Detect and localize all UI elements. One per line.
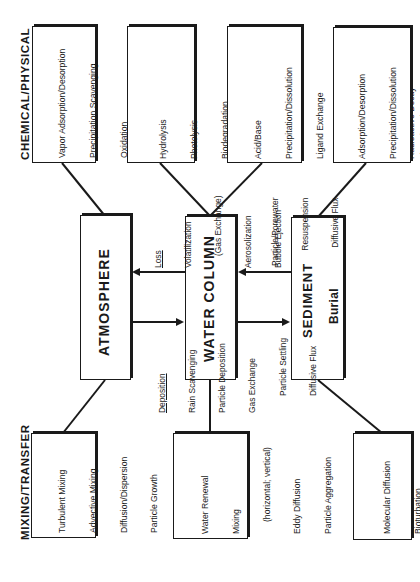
chem-water-box: Hydrolysis Photolysis Biodegradation Bio… xyxy=(127,26,195,163)
list-item: Ligand Exchange xyxy=(315,67,325,159)
resuspension-flux-label: Particle/Porewater Resuspension Diffusiv… xyxy=(250,198,350,266)
list-item: Hydrolysis xyxy=(158,74,168,159)
list-item: Advective Mixing xyxy=(88,454,98,533)
list-item: Diffusion/Dispersion xyxy=(119,454,129,533)
list-item: Mixing xyxy=(231,447,241,534)
chemical-physical-title: CHEMICAL/PHYSICAL xyxy=(19,28,31,160)
chem-atmosphere-box: Vapor Adsorption/Desorption Precipitatio… xyxy=(32,26,96,163)
atmosphere-compartment: ATMOSPHERE xyxy=(80,215,131,380)
mix-atmosphere-box: Turbulent Mixing Advective Mixing Diffus… xyxy=(31,433,96,538)
list-item: Molecular Diffusion xyxy=(382,455,392,534)
mix-sediment-box: Molecular Diffusion Bioturbation Porewat… xyxy=(353,433,412,540)
list-item: Acid/Base xyxy=(253,67,263,159)
list-item: (horizontal; vertical) xyxy=(262,447,272,534)
list-item: Particle Growth xyxy=(149,454,159,533)
list-item: Adsorption/Desorption xyxy=(357,67,367,159)
deposition-flux-label: Deposition Rain Scavenging Particle Depo… xyxy=(137,343,267,413)
atmosphere-label: ATMOSPHERE xyxy=(96,248,112,356)
chem-interface-box: Acid/Base Precipitation/Dissolution Liga… xyxy=(227,26,302,163)
sediment-label: SEDIMENT xyxy=(300,263,315,338)
list-item: Turbulent Mixing xyxy=(57,454,67,533)
list-item: Bioturbation xyxy=(413,455,420,534)
list-item: Vapor Adsorption/Desorption xyxy=(57,49,67,158)
list-item: Particle Aggregation xyxy=(323,447,333,534)
list-item: Precipitation Scavenging xyxy=(88,49,98,158)
list-item: Precipitation/Dissolution xyxy=(284,67,294,159)
list-item: Eddy Diffusion xyxy=(292,447,302,534)
list-item: Photolysis xyxy=(189,74,199,159)
list-item: Precipitation/Dissolution xyxy=(388,67,398,159)
settling-flux-label: Particle Settling Diffusive Flux xyxy=(258,338,328,396)
mixing-transfer-title: MIXING/TRANSFER xyxy=(19,424,31,540)
mix-water-box: Water Renewal Mixing (horizontal; vertic… xyxy=(173,433,248,539)
burial-label: Burial xyxy=(327,288,341,324)
chem-sediment-box: Adsorption/Desorption Precipitation/Diss… xyxy=(333,27,411,163)
list-item: Water Renewal xyxy=(200,447,210,534)
